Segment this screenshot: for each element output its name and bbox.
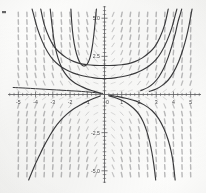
plot-background	[0, 0, 206, 193]
x-tick-label: -4	[33, 99, 38, 105]
x-tick-label: -5	[16, 99, 21, 105]
y-tick-label: -2.5	[91, 130, 100, 136]
y-tick-label: -5.0	[91, 168, 100, 174]
x-tick-label: -3	[50, 99, 55, 105]
y-tick-label: 5.0	[93, 15, 100, 21]
x-tick-label: 5	[189, 99, 192, 105]
scan-artifact-mark	[2, 11, 6, 13]
x-tick-label: 3	[155, 99, 158, 105]
x-tick-label: 0	[106, 99, 109, 105]
slope-field-figure: -5-4-3-2-1012345-5.0-2.52.55.0	[0, 0, 206, 193]
x-tick-label: -2	[68, 99, 73, 105]
slope-field-plot: -5-4-3-2-1012345-5.0-2.52.55.0	[0, 0, 206, 193]
y-tick-label: 2.5	[93, 53, 100, 59]
x-tick-label: 4	[172, 99, 175, 105]
